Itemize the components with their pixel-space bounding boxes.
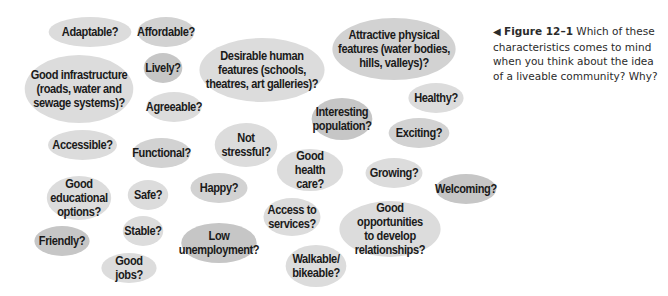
bubble-accessible: Accessible? — [48, 130, 117, 160]
bubble-desirable-human-features: Desirable human features (schools, theat… — [199, 38, 324, 102]
bubble-happy: Happy? — [190, 173, 247, 203]
bubble-stable: Stable? — [123, 216, 163, 246]
bubble-adaptable: Adaptable? — [49, 17, 132, 47]
figure-label: Figure 12–1 — [504, 25, 573, 37]
bubble-attractive-physical-features: Attractive physical features (water bodi… — [332, 18, 455, 80]
bubble-affordable: Affordable? — [137, 17, 194, 47]
bubble-friendly: Friendly? — [34, 226, 89, 256]
bubble-functional: Functional? — [133, 138, 191, 168]
bubble-good-jobs: Good jobs? — [101, 253, 156, 283]
bubble-safe: Safe? — [128, 180, 168, 210]
bubble-agreeable: Agreeable? — [146, 92, 201, 122]
bubble-walkable-bikeable: Walkable/ bikeable? — [286, 245, 347, 287]
figure-caption: ◀ Figure 12–1 Which of these characteris… — [493, 24, 663, 83]
bubble-good-opportunities: Good opportunities to develop relationsh… — [339, 201, 440, 257]
bubble-low-unemployment: Low unemployment? — [181, 223, 256, 263]
bubble-good-health-care: Good health care? — [277, 149, 343, 191]
bubble-interesting-population: Interesting population? — [312, 98, 373, 140]
bubble-welcoming: Welcoming? — [436, 174, 497, 204]
bubble-healthy: Healthy? — [408, 83, 463, 113]
bubble-not-stressful: Not stressful? — [215, 123, 278, 167]
bubble-good-infrastructure: Good infrastructure (roads, water and se… — [25, 55, 134, 123]
bubble-lively: Lively? — [144, 53, 183, 83]
left-arrow-icon: ◀ — [493, 26, 501, 37]
bubble-growing: Growing? — [365, 158, 422, 188]
bubble-exciting: Exciting? — [389, 118, 450, 148]
bubble-good-educational-options: Good educational options? — [47, 176, 111, 220]
bubble-access-to-services: Access to services? — [263, 198, 320, 236]
